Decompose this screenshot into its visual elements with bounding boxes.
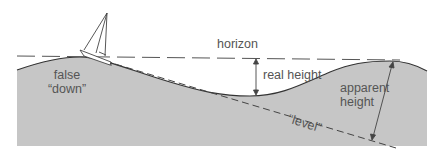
false-down-label-line2: “down” bbox=[48, 82, 86, 96]
real-height-label: real height bbox=[263, 68, 322, 82]
horizon-diagram: horizon false “down” real height apparen… bbox=[0, 0, 440, 156]
real-height-arrow bbox=[254, 59, 259, 95]
apparent-height-label-line1: apparent bbox=[340, 81, 390, 95]
false-down-label-line1: false bbox=[54, 68, 80, 82]
horizon-label: horizon bbox=[217, 37, 258, 51]
apparent-height-label-line2: height bbox=[340, 95, 375, 109]
